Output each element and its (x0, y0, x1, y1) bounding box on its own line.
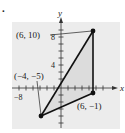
label-point-6-10: (6, 10) (16, 30, 40, 40)
point-6-10 (91, 29, 96, 34)
tick-label-y-4: 4 (51, 61, 55, 70)
coordinate-plot: x y −8 8 4 (6, 10) (−4, −5) (6, −1) (0, 0, 125, 133)
x-axis-label: x (119, 83, 124, 93)
label-point-neg4-neg5: (−4, −5) (14, 71, 44, 81)
point-6-neg1 (91, 91, 96, 96)
label-point-6-neg1: (6, −1) (77, 101, 102, 111)
tick-label-x-neg8: −8 (14, 93, 23, 102)
point-neg4-neg5 (39, 114, 44, 119)
y-axis-label: y (57, 8, 62, 18)
